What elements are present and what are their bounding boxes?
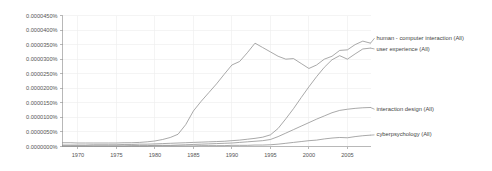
data-series-lines xyxy=(63,41,371,146)
x-axis-tick-label: 1980 xyxy=(149,152,161,158)
y-axis-tick-label: 0.0000100% xyxy=(26,114,57,120)
series-leader-line xyxy=(371,38,375,43)
y-axis-tick-label: 0.0000150% xyxy=(26,100,57,106)
y-axis-tick-label: 0.0000200% xyxy=(26,85,57,91)
y-axis-tick-label: 0.0000050% xyxy=(26,129,57,135)
x-axis-tick-label: 1990 xyxy=(226,152,238,158)
x-axis-tick-label: 1975 xyxy=(110,152,122,158)
series-inline-label: human - computer interaction (All) xyxy=(377,35,464,41)
chart-axes xyxy=(60,16,371,150)
x-axis-tick-label: 1970 xyxy=(72,152,84,158)
series-inline-label: interaction design (All) xyxy=(377,106,434,112)
series-leader-line xyxy=(371,107,375,109)
series-leader-line xyxy=(371,48,375,49)
series-line xyxy=(63,48,371,145)
ngram-chart: 0.0000450%0.0000400%0.0000350%0.0000300%… xyxy=(0,0,492,171)
chart-canvas: 0.0000450%0.0000400%0.0000350%0.0000300%… xyxy=(0,0,492,171)
y-axis-tick-label: 0.0000450% xyxy=(26,13,57,19)
y-axis-tick-label: 0.0000400% xyxy=(26,27,57,33)
series-inline-label: user experience (All) xyxy=(377,46,430,52)
x-axis-tick-label: 1995 xyxy=(264,152,276,158)
x-axis-tick-label: 1985 xyxy=(187,152,199,158)
series-line xyxy=(63,107,371,145)
series-inline-labels: human - computer interaction (All)user e… xyxy=(371,35,464,138)
series-line xyxy=(63,41,371,143)
y-axis-tick-label: 0.0000000% xyxy=(26,144,57,150)
gridlines xyxy=(63,16,371,147)
y-axis-tick-label: 0.0000250% xyxy=(26,71,57,77)
x-axis-tick-label: 2005 xyxy=(341,152,353,158)
series-inline-label: cyberpsychology (All) xyxy=(377,131,432,137)
x-axis-tick-labels: 19701975198019851990199520002005 xyxy=(72,152,354,158)
y-axis-tick-label: 0.0000300% xyxy=(26,56,57,62)
y-axis-tick-label: 0.0000350% xyxy=(26,42,57,48)
y-axis-tick-labels: 0.0000450%0.0000400%0.0000350%0.0000300%… xyxy=(26,13,57,150)
x-axis-tick-label: 2000 xyxy=(303,152,315,158)
